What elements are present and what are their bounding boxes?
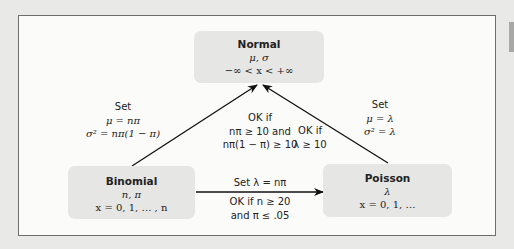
- ok-label: OK if: [210, 111, 310, 125]
- ok-label: OK if: [285, 124, 335, 138]
- node-binomial-params: n, π: [68, 188, 195, 201]
- node-binomial-support: x = 0, 1, … , n: [68, 201, 195, 214]
- node-poisson: Poisson λ x = 0, 1, …: [323, 164, 452, 217]
- set-sigma: σ² = λ: [350, 125, 410, 139]
- node-normal-title: Normal: [194, 38, 324, 51]
- ok-cond-2: and π ≤ .05: [205, 209, 315, 223]
- set-lambda: Set λ = nπ: [205, 176, 315, 190]
- label-poisson-normal-set: Set μ = λ σ² = λ: [350, 98, 410, 139]
- label-binomial-poisson-set: Set λ = nπ: [205, 176, 315, 190]
- set-mu: μ = λ: [350, 112, 410, 126]
- set-label: Set: [78, 100, 168, 114]
- label-poisson-normal-ok: OK if λ ≥ 10: [285, 124, 335, 151]
- ok-cond-1: OK if n ≥ 20: [205, 195, 315, 209]
- set-sigma: σ² = nπ(1 − π): [78, 127, 168, 141]
- node-poisson-support: x = 0, 1, …: [323, 198, 452, 211]
- set-mu: μ = nπ: [78, 114, 168, 128]
- set-label: Set: [350, 98, 410, 112]
- label-binomial-normal-set: Set μ = nπ σ² = nπ(1 − π): [78, 100, 168, 141]
- node-poisson-title: Poisson: [323, 172, 452, 185]
- label-binomial-poisson-ok: OK if n ≥ 20 and π ≤ .05: [205, 195, 315, 222]
- node-poisson-params: λ: [323, 185, 452, 198]
- ok-cond-1: λ ≥ 10: [285, 138, 335, 152]
- node-binomial-title: Binomial: [68, 175, 195, 188]
- node-binomial: Binomial n, π x = 0, 1, … , n: [68, 166, 195, 219]
- node-normal-params: μ, σ: [194, 51, 324, 64]
- node-normal-support: −∞ < x < +∞: [194, 64, 324, 77]
- node-normal: Normal μ, σ −∞ < x < +∞: [194, 31, 324, 83]
